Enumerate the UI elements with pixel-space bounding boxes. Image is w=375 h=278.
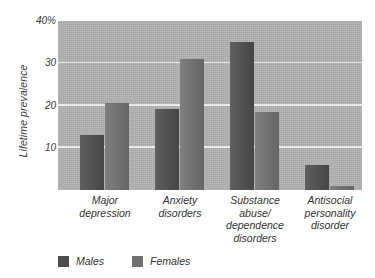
x-axis-label-line: disorders <box>142 207 218 220</box>
plot-area <box>58 21 362 190</box>
y-tick-label-30: 30 <box>16 58 56 68</box>
legend-swatch-icon <box>58 256 69 267</box>
legend-item-males[interactable]: Males <box>58 255 104 267</box>
bar-males-1 <box>155 109 179 190</box>
x-axis-label-0: Majordepression <box>67 194 143 219</box>
x-axis-label-line: abuse/ <box>217 207 293 220</box>
x-axis-category-labels: MajordepressionAnxietydisordersSubstance… <box>58 194 362 254</box>
x-axis-label-line: Antisocial <box>292 194 368 207</box>
y-tick-label-40: 40% <box>16 16 56 26</box>
x-axis-label-line: personality <box>292 207 368 220</box>
bar-males-0 <box>80 135 104 190</box>
x-axis-label-1: Anxietydisorders <box>142 194 218 219</box>
y-tick-label-20: 20 <box>16 101 56 111</box>
y-tick-label-10: 10 <box>16 143 56 153</box>
bars-layer <box>58 21 362 190</box>
x-axis-label-line: dependence <box>217 219 293 232</box>
bar-chart-figure: Lifetime prevalence 10203040% Majordepre… <box>0 0 375 278</box>
legend-swatch-icon <box>132 256 143 267</box>
x-axis-label-line: disorders <box>217 232 293 245</box>
x-axis-label-line: disorder <box>292 219 368 232</box>
legend-label: Males <box>76 255 104 267</box>
x-axis-label-3: Antisocialpersonalitydisorder <box>292 194 368 232</box>
bar-females-3 <box>330 186 354 190</box>
chart-legend: MalesFemales <box>58 255 190 267</box>
x-axis-label-line: depression <box>67 207 143 220</box>
bar-females-2 <box>255 112 279 190</box>
x-axis-label-line: Major <box>67 194 143 207</box>
legend-item-females[interactable]: Females <box>132 255 190 267</box>
x-axis-label-2: Substanceabuse/dependencedisorders <box>217 194 293 244</box>
x-axis-label-line: Anxiety <box>142 194 218 207</box>
bar-males-3 <box>305 165 329 190</box>
legend-label: Females <box>150 255 190 267</box>
bar-females-1 <box>180 59 204 190</box>
bar-females-0 <box>105 103 129 190</box>
bar-males-2 <box>230 42 254 190</box>
x-axis-label-line: Substance <box>217 194 293 207</box>
